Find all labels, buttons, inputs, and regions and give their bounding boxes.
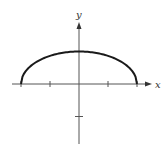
x-axis-arrow-icon: [145, 82, 152, 87]
x-axis-label: x: [155, 79, 161, 90]
y-axis-label: y: [75, 9, 82, 20]
y-axis-arrow-icon: [77, 22, 82, 29]
chart: x y: [0, 0, 165, 147]
